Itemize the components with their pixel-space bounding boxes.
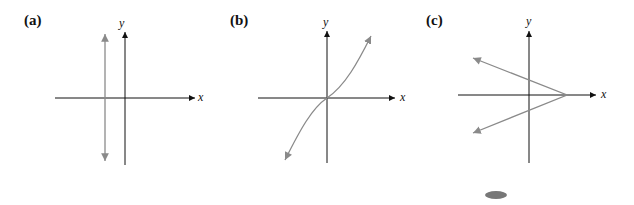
panel-a-label: (a) <box>24 12 42 29</box>
panel-a-y-label: y <box>119 16 124 31</box>
panel-b-x-label: x <box>400 90 405 105</box>
graphs-svg <box>0 0 634 205</box>
figure: (a) y x (b) y x (c) y x <box>0 0 634 205</box>
panel-a-x-label: x <box>198 90 203 105</box>
panel-b-y-label: y <box>323 15 328 30</box>
panel-b-axes <box>258 31 395 163</box>
decorative-ellipse <box>485 191 507 199</box>
panel-b-label: (b) <box>230 12 248 29</box>
panel-c-label: (c) <box>426 12 443 29</box>
panel-a-axes <box>55 32 195 165</box>
panel-c-axes <box>458 31 596 163</box>
panel-c-x-label: x <box>601 87 606 102</box>
panel-c-y-label: y <box>526 14 531 29</box>
